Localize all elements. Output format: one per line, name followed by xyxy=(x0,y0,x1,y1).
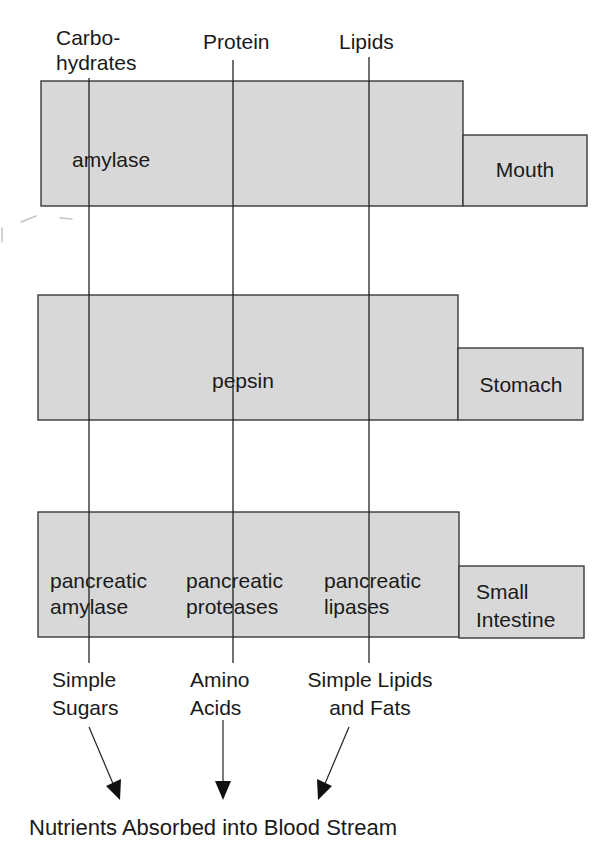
organ-mouth: Mouth amylase xyxy=(41,81,587,206)
arrow-lipids xyxy=(317,727,349,800)
scan-artifacts xyxy=(2,216,72,242)
product-simple-sugars-line2: Sugars xyxy=(52,696,119,719)
enzyme-pepsin: pepsin xyxy=(212,369,274,392)
small-intestine-label-line1: Small xyxy=(476,580,529,603)
arrow-sugars xyxy=(89,727,121,800)
arrow-head-icon xyxy=(106,779,121,800)
product-simple-lipids-line2: and Fats xyxy=(329,696,411,719)
absorption-arrows xyxy=(89,720,349,800)
stomach-process-box xyxy=(38,295,458,420)
arrow-amino-acids xyxy=(215,720,231,800)
small-intestine-label-line2: Intestine xyxy=(476,608,555,631)
arrow-head-icon xyxy=(215,781,231,800)
digestion-products: Simple Sugars Amino Acids Simple Lipids … xyxy=(52,668,432,719)
nutrient-lipids: Lipids xyxy=(339,30,394,53)
organ-stomach: Stomach pepsin xyxy=(38,295,583,420)
nutrient-carbohydrates-line2: hydrates xyxy=(56,51,137,74)
organ-small-intestine: Small Intestine pancreatic amylase pancr… xyxy=(38,512,584,638)
arrow-head-icon xyxy=(317,779,332,800)
result-caption: Nutrients Absorbed into Blood Stream xyxy=(29,815,397,840)
product-simple-lipids-line1: Simple Lipids xyxy=(308,668,433,691)
enzyme-pancreatic-proteases-line1: pancreatic xyxy=(186,569,283,592)
mouth-process-box xyxy=(41,81,463,206)
stomach-label: Stomach xyxy=(480,373,563,396)
enzyme-pancreatic-lipases-line1: pancreatic xyxy=(324,569,421,592)
product-simple-sugars-line1: Simple xyxy=(52,668,116,691)
mouth-label: Mouth xyxy=(496,158,554,181)
nutrient-protein: Protein xyxy=(203,30,270,53)
nutrient-carbohydrates-line1: Carbo- xyxy=(56,26,120,49)
enzyme-pancreatic-amylase-line1: pancreatic xyxy=(50,569,147,592)
enzyme-pancreatic-proteases-line2: proteases xyxy=(186,595,278,618)
product-amino-acids-line2: Acids xyxy=(190,696,241,719)
enzyme-amylase: amylase xyxy=(72,148,150,171)
enzyme-pancreatic-lipases-line2: lipases xyxy=(324,595,389,618)
nutrient-headers: Carbo- hydrates Protein Lipids xyxy=(56,26,394,74)
digestion-diagram: Mouth amylase Stomach pepsin Small Intes… xyxy=(0,0,600,845)
product-amino-acids-line1: Amino xyxy=(190,668,250,691)
